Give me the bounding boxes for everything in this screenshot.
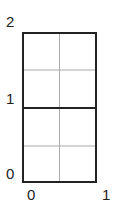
y-tick-label-2: 2 [6,14,14,29]
x-tick-label-1: 1 [102,187,110,202]
y-tick-label-0: 0 [6,166,14,181]
grid-diagram [0,0,121,206]
y-tick-label-1: 1 [6,91,14,106]
x-tick-label-0: 0 [27,187,35,202]
